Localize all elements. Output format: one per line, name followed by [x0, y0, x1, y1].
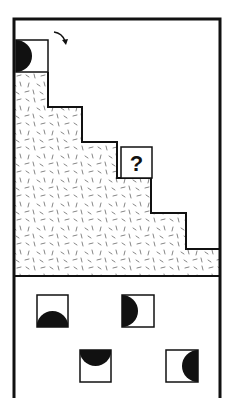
option-c[interactable] — [80, 334, 112, 382]
option-b[interactable] — [106, 295, 154, 327]
puzzle-canvas: ? — [0, 0, 233, 398]
option-a[interactable] — [37, 295, 69, 343]
start-tile — [0, 40, 48, 72]
question-mark: ? — [130, 151, 143, 176]
option-d[interactable] — [166, 350, 214, 382]
clockwise-arrow-icon — [54, 32, 68, 45]
question-tile: ? — [121, 147, 152, 178]
